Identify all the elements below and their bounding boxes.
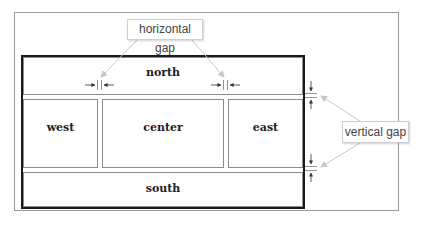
- region-west: west: [23, 99, 98, 168]
- horizontal-gap-callout: horizontal gap: [127, 19, 203, 40]
- region-north: north: [23, 57, 303, 95]
- region-north-label: north: [24, 66, 302, 79]
- region-east: east: [228, 99, 303, 168]
- region-east-label: east: [229, 121, 302, 134]
- region-west-label: west: [24, 121, 97, 134]
- region-center-label: center: [103, 121, 223, 134]
- region-center: center: [102, 99, 224, 168]
- region-south: south: [23, 172, 303, 207]
- vertical-gap-callout: vertical gap: [342, 121, 409, 143]
- border-layout-container: north west center east south: [21, 55, 305, 209]
- region-south-label: south: [24, 182, 302, 195]
- vertical-gap-callout-text: vertical gap: [345, 125, 406, 139]
